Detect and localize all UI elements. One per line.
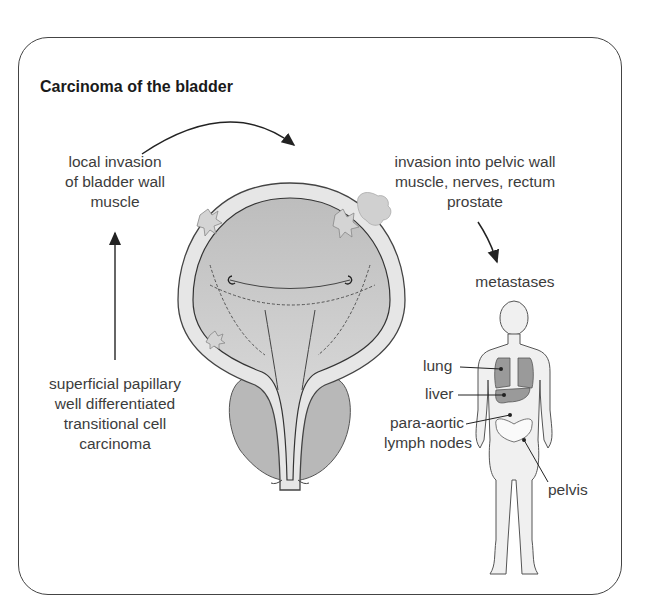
- label-superficial-carcinoma: superficial papillary well differentiate…: [30, 374, 200, 454]
- label-line: of bladder wall: [40, 172, 190, 192]
- diagram-artwork: [0, 0, 655, 612]
- label-line: muscle, nerves, rectum: [360, 172, 590, 192]
- label-local-invasion: local invasion of bladder wall muscle: [40, 152, 190, 212]
- arrow-local-to-pelvic: [142, 122, 294, 154]
- label-pelvic-invasion: invasion into pelvic wall muscle, nerves…: [360, 152, 590, 212]
- bladder-illustration: [178, 183, 405, 490]
- label-line: muscle: [40, 192, 190, 212]
- label-lung: lung: [423, 356, 452, 376]
- label-line: prostate: [360, 192, 590, 212]
- bladder-lumen: [193, 198, 390, 480]
- arrow-pelvic-to-metastases: [478, 222, 497, 262]
- label-line: local invasion: [40, 152, 190, 172]
- label-para-aortic-nodes: para-aortic lymph nodes: [384, 413, 464, 453]
- label-line: transitional cell: [30, 414, 200, 434]
- label-liver: liver: [425, 384, 453, 404]
- label-line: carcinoma: [30, 434, 200, 454]
- label-pelvis: pelvis: [548, 480, 588, 500]
- label-line: lymph nodes: [384, 433, 464, 453]
- label-metastases: metastases: [460, 272, 570, 292]
- label-line: superficial papillary: [30, 374, 200, 394]
- label-line: para-aortic: [384, 413, 464, 433]
- label-line: well differentiated: [30, 394, 200, 414]
- label-line: invasion into pelvic wall: [360, 152, 590, 172]
- human-figure: [458, 301, 552, 574]
